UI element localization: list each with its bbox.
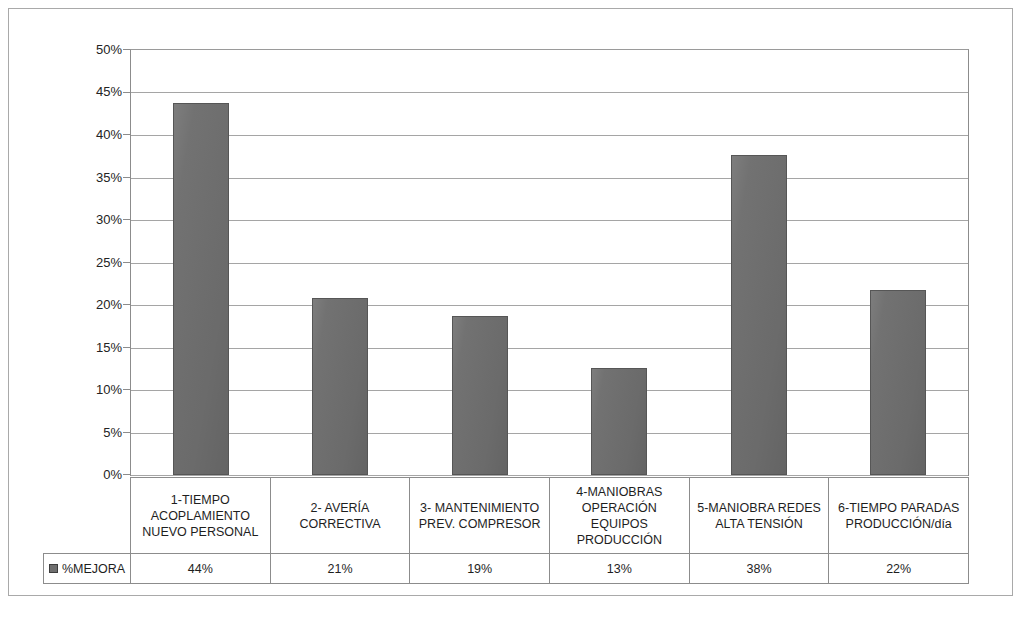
- data-table-value-cell: 21%: [271, 554, 411, 583]
- legend: %MEJORA: [43, 553, 130, 584]
- bar: [731, 155, 787, 475]
- y-axis-tick-label: 20%: [66, 297, 122, 312]
- data-table-category-cell: 5-MANIOBRA REDESALTA TENSIÓN: [690, 478, 830, 553]
- y-axis-tick-label: 5%: [66, 425, 122, 440]
- y-axis-tick-label: 35%: [66, 170, 122, 185]
- y-axis-tick-mark: [123, 389, 130, 390]
- gridline: [131, 220, 968, 221]
- y-axis-tick-label: 45%: [66, 84, 122, 99]
- data-table-value-cell: 13%: [550, 554, 690, 583]
- bar: [452, 316, 508, 475]
- data-table-value-row: 44%21%19%13%38%22%: [130, 553, 969, 584]
- y-axis: 0%5%10%15%20%25%30%35%40%45%50%: [58, 49, 122, 476]
- gridline: [131, 348, 968, 349]
- y-axis-tick-label: 15%: [66, 340, 122, 355]
- y-axis-tick-mark: [123, 304, 130, 305]
- y-axis-tick-label: 40%: [66, 127, 122, 142]
- bar: [870, 290, 926, 475]
- y-axis-tick-label: 0%: [66, 467, 122, 482]
- y-axis-tick-mark: [123, 474, 130, 475]
- plot-area: [130, 49, 969, 476]
- y-axis-tick-label: 50%: [66, 42, 122, 57]
- bar: [173, 103, 229, 475]
- gridline: [131, 305, 968, 306]
- y-axis-tick-mark: [123, 49, 130, 50]
- data-table-category-cell: 6-TIEMPO PARADASPRODUCCIÓN/día: [829, 478, 968, 553]
- y-axis-tick-mark: [123, 177, 130, 178]
- gridline: [131, 433, 968, 434]
- data-table-value-cell: 22%: [829, 554, 968, 583]
- data-table-category-row: 1-TIEMPOACOPLAMIENTONUEVO PERSONAL2- AVE…: [130, 477, 969, 553]
- legend-swatch-icon: [49, 564, 58, 573]
- data-table-category-cell: 4-MANIOBRASOPERACIÓNEQUIPOSPRODUCCIÓN: [550, 478, 690, 553]
- gridline: [131, 92, 968, 93]
- gridline: [131, 475, 968, 476]
- gridline: [131, 135, 968, 136]
- bar: [591, 368, 647, 475]
- chart-frame: 0%5%10%15%20%25%30%35%40%45%50% 1-TIEMPO…: [8, 8, 1013, 596]
- gridline: [131, 178, 968, 179]
- data-table-value-cell: 44%: [131, 554, 271, 583]
- y-axis-tick-mark: [123, 134, 130, 135]
- data-table-value-cell: 38%: [690, 554, 830, 583]
- data-table-category-cell: 1-TIEMPOACOPLAMIENTONUEVO PERSONAL: [131, 478, 271, 553]
- data-table: 1-TIEMPOACOPLAMIENTONUEVO PERSONAL2- AVE…: [130, 477, 969, 584]
- data-table-value-cell: 19%: [410, 554, 550, 583]
- y-axis-tick-label: 10%: [66, 382, 122, 397]
- data-table-category-cell: 3- MANTENIMIENTOPREV. COMPRESOR: [410, 478, 550, 553]
- y-axis-tick-label: 30%: [66, 212, 122, 227]
- gridline: [131, 390, 968, 391]
- data-table-category-cell: 2- AVERÍACORRECTIVA: [271, 478, 411, 553]
- y-axis-tick-mark: [123, 219, 130, 220]
- y-axis-tick-label: 25%: [66, 255, 122, 270]
- y-axis-tick-mark: [123, 262, 130, 263]
- gridline: [131, 263, 968, 264]
- y-axis-tick-mark: [123, 92, 130, 93]
- legend-label: %MEJORA: [62, 562, 125, 576]
- bar: [312, 298, 368, 475]
- y-axis-tick-mark: [123, 347, 130, 348]
- y-axis-tick-mark: [123, 432, 130, 433]
